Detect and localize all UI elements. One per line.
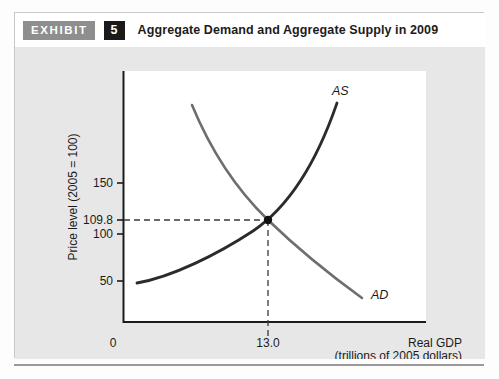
exhibit-number-box: 5 — [104, 21, 125, 40]
exhibit-page: EXHIBIT 5 Aggregate Demand and Aggregate… — [0, 0, 499, 379]
x-axis-title: Real GDP — [408, 336, 462, 350]
exhibit-card: EXHIBIT 5 Aggregate Demand and Aggregate… — [14, 12, 484, 358]
aggregate-supply-demand-chart: 150 109.8 100 50 Price level (2005 = 100… — [15, 47, 485, 359]
exhibit-header: EXHIBIT 5 Aggregate Demand and Aggregate… — [15, 13, 485, 47]
plot-background — [123, 71, 426, 323]
y-axis-title: Price level (2005 = 100) — [66, 133, 80, 260]
x-tick-label-0: 0 — [110, 336, 117, 350]
x-axis-subtitle: (trillions of 2005 dollars) — [335, 349, 462, 359]
exhibit-title: Aggregate Demand and Aggregate Supply in… — [138, 23, 439, 37]
x-tick-label-13-0: 13.0 — [256, 336, 280, 350]
footer-rule — [14, 364, 484, 366]
chart-panel: 150 109.8 100 50 Price level (2005 = 100… — [15, 47, 485, 359]
equilibrium-point-marker — [264, 216, 272, 224]
y-tick-label-150: 150 — [93, 176, 113, 190]
y-tick-label-109-8: 109.8 — [83, 213, 113, 227]
y-tick-label-100: 100 — [93, 227, 113, 241]
as-curve-label: AS — [331, 84, 349, 98]
y-tick-label-50: 50 — [100, 274, 114, 288]
ad-curve-label: AD — [370, 288, 388, 302]
exhibit-badge-label: EXHIBIT — [23, 21, 95, 40]
